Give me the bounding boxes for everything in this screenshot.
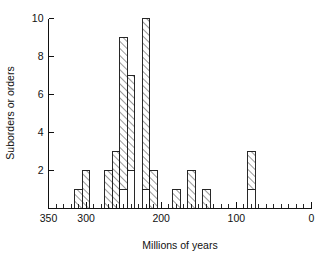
histogram-bar xyxy=(112,152,120,209)
x-axis-tick-label: 300 xyxy=(77,212,95,224)
histogram-bar xyxy=(127,76,135,209)
histogram-bar xyxy=(248,152,256,209)
x-axis-tick-label: 100 xyxy=(228,212,246,224)
histogram-bar xyxy=(105,171,113,209)
y-axis-tick-label: 4 xyxy=(38,126,44,138)
bar-open-segment xyxy=(127,171,135,209)
x-axis-title: Millions of years xyxy=(142,239,217,251)
histogram-bar xyxy=(142,19,150,209)
histogram-svg: 3503002001000 246810 Millions of years S… xyxy=(0,0,334,261)
bar-hatched-segment xyxy=(105,171,113,209)
y-axis-title: Suborders or orders xyxy=(4,66,16,159)
bar-hatched-segment xyxy=(150,171,158,209)
histogram-bar xyxy=(188,171,196,209)
y-axis-tick-label: 10 xyxy=(32,12,44,24)
bar-hatched-segment xyxy=(142,19,150,190)
x-axis-tick-label: 0 xyxy=(309,212,315,224)
y-axis-tick-label: 8 xyxy=(38,50,44,62)
chart-figure: 3503002001000 246810 Millions of years S… xyxy=(0,0,334,261)
bar-hatched-segment xyxy=(248,152,256,190)
histogram-bar xyxy=(150,171,158,209)
y-axis-tick-label: 6 xyxy=(38,88,44,100)
x-axis-tick-label: 350 xyxy=(40,212,58,224)
bar-hatched-segment xyxy=(188,171,196,209)
x-axis-tick-label: 200 xyxy=(152,212,170,224)
bar-hatched-segment xyxy=(120,38,128,190)
histogram-bar xyxy=(120,38,128,209)
bar-hatched-segment xyxy=(127,76,135,171)
y-ticks-group: 246810 xyxy=(32,12,54,176)
bar-hatched-segment xyxy=(112,152,120,209)
plot-area xyxy=(75,19,255,209)
y-axis-tick-label: 2 xyxy=(38,164,44,176)
